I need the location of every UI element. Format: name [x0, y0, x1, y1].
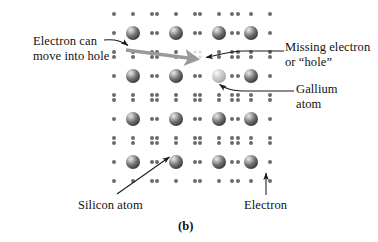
gallium-atom-sphere	[212, 69, 226, 83]
electron-dot	[150, 31, 154, 35]
electron-dot	[131, 12, 135, 16]
silicon-atom-sphere	[212, 112, 226, 126]
electron-dot	[249, 136, 253, 140]
electron-dot	[249, 93, 253, 97]
electron-dot	[198, 93, 202, 97]
electron-dot	[236, 117, 240, 121]
electron-dot	[193, 98, 197, 102]
electron-dot	[193, 12, 197, 16]
silicon-atom-sphere	[169, 26, 183, 40]
electron-dot	[198, 31, 202, 35]
electron-dot	[193, 117, 197, 121]
electron-dot	[217, 179, 221, 183]
label-electron-can-move-into-hole: Electron can move into hole	[33, 34, 109, 63]
electron-dot	[249, 179, 253, 183]
electron-dot	[112, 31, 116, 35]
electron-dot	[236, 93, 240, 97]
electron-dot	[193, 179, 197, 183]
electron-dot	[236, 160, 240, 164]
electron-dot	[155, 136, 159, 140]
electron-dot	[217, 98, 221, 102]
electron-dot	[198, 136, 202, 140]
electron-dot	[155, 31, 159, 35]
electron-dot	[155, 141, 159, 145]
electron-dot	[131, 141, 135, 145]
electron-dot	[112, 55, 116, 59]
electron-dot	[193, 93, 197, 97]
electron-dot	[112, 74, 116, 78]
electron-dot	[230, 31, 234, 35]
electron-dot	[193, 74, 197, 78]
electron-dot	[131, 136, 135, 140]
electron-dot	[193, 160, 197, 164]
electron-dot	[268, 141, 272, 145]
electron-dot	[174, 98, 178, 102]
silicon-atom-sphere	[169, 155, 183, 169]
electron-dot	[249, 141, 253, 145]
electron-dot	[155, 74, 159, 78]
electron-dot	[249, 12, 253, 16]
electron-dot	[150, 74, 154, 78]
electron-dot	[131, 98, 135, 102]
electron-dot	[150, 117, 154, 121]
electron-dot	[236, 55, 240, 59]
silicon-atom-sphere	[244, 112, 258, 126]
electron-dot	[268, 160, 272, 164]
electron-dot	[268, 98, 272, 102]
electron-dot	[150, 93, 154, 97]
electron-dot	[198, 141, 202, 145]
electron-dot	[236, 141, 240, 145]
electron-dot	[155, 12, 159, 16]
electron-dot	[112, 179, 116, 183]
electron-dot	[268, 117, 272, 121]
electron-dot	[193, 141, 197, 145]
electron-dot	[230, 12, 234, 16]
electron-dot	[150, 136, 154, 140]
electron-dot	[230, 136, 234, 140]
electron-dot	[236, 179, 240, 183]
electron-dot	[268, 136, 272, 140]
electron-dot	[193, 136, 197, 140]
electron-dot	[230, 98, 234, 102]
silicon-atom-sphere	[169, 69, 183, 83]
electron-dot	[268, 31, 272, 35]
electron-dot	[198, 117, 202, 121]
panel-letter: (b)	[178, 219, 194, 234]
hole-site	[198, 55, 201, 58]
hole-site	[198, 50, 201, 53]
electron-dot	[236, 12, 240, 16]
electron-dot	[230, 117, 234, 121]
electron-dot	[131, 93, 135, 97]
label-silicon-atom: Silicon atom	[78, 198, 143, 213]
electron-dot	[268, 93, 272, 97]
electron-dot	[174, 179, 178, 183]
electron-dot	[155, 179, 159, 183]
atom-group	[126, 26, 258, 169]
electron-dot	[268, 179, 272, 183]
electron-dot	[236, 74, 240, 78]
silicon-atom-sphere	[126, 69, 140, 83]
electron-dot	[112, 12, 116, 16]
silicon-atom-sphere	[244, 69, 258, 83]
electron-dot	[150, 98, 154, 102]
electron-dot	[198, 74, 202, 78]
electron-dot	[155, 98, 159, 102]
electron-dot	[112, 136, 116, 140]
electron-dot	[217, 93, 221, 97]
electron-dot	[150, 141, 154, 145]
silicon-atom-sphere	[126, 155, 140, 169]
silicon-atom-sphere	[126, 26, 140, 40]
electron-dot	[193, 31, 197, 35]
electron-dot	[230, 55, 234, 59]
electron-dot	[198, 160, 202, 164]
leader-gallium-atom-icon	[220, 85, 295, 92]
electron-dot	[155, 93, 159, 97]
electron-dot	[217, 50, 221, 54]
electron-dot	[249, 98, 253, 102]
electron-dot	[155, 160, 159, 164]
electron-dot	[230, 160, 234, 164]
label-missing-electron-or-hole: Missing electron or “hole”	[285, 40, 370, 69]
electron-dot	[112, 98, 116, 102]
silicon-atom-sphere	[212, 155, 226, 169]
label-gallium-atom: Gallium atom	[296, 82, 338, 111]
